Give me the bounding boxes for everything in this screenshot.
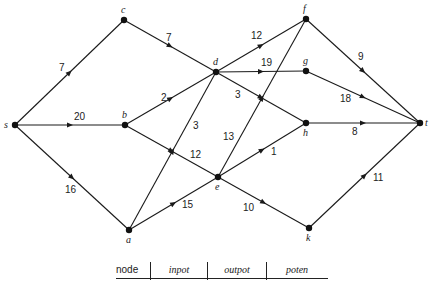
node-t bbox=[417, 120, 423, 126]
col-node: node bbox=[116, 262, 150, 278]
edge-weight: 20 bbox=[74, 111, 86, 122]
edge-weight: 18 bbox=[340, 93, 352, 104]
node-label: d bbox=[213, 56, 219, 67]
node-s bbox=[12, 122, 18, 128]
edge-weight: 7 bbox=[59, 62, 65, 73]
node-label: h bbox=[303, 127, 308, 138]
arrow-icon bbox=[67, 122, 73, 127]
potential-table-header: node inpot outpot poten bbox=[116, 262, 328, 279]
edge-weight: 7 bbox=[166, 32, 172, 43]
arrow-icon bbox=[258, 148, 264, 153]
network-graph: 7720216312151219313110918811scbadefghkt bbox=[0, 0, 431, 283]
node-label: s bbox=[4, 119, 8, 130]
node-label: c bbox=[121, 4, 126, 15]
edge-weight: 13 bbox=[223, 131, 235, 142]
node-f bbox=[303, 16, 309, 22]
node-b bbox=[122, 122, 128, 128]
col-inpot: inpot bbox=[151, 262, 207, 278]
edge-weight: 2 bbox=[161, 92, 167, 103]
arrow-icon bbox=[360, 120, 366, 125]
node-e bbox=[215, 174, 221, 180]
edge-weight: 19 bbox=[261, 57, 273, 68]
node-k bbox=[306, 225, 312, 231]
edge-weight: 11 bbox=[373, 172, 384, 183]
node-label: t bbox=[425, 117, 428, 128]
col-poten: poten bbox=[267, 262, 327, 278]
node-label: b bbox=[122, 109, 127, 120]
node-label: k bbox=[306, 232, 311, 243]
col-outpot: outpot bbox=[208, 262, 266, 278]
node-label: g bbox=[303, 55, 308, 66]
edge-weight: 9 bbox=[358, 51, 364, 62]
node-c bbox=[121, 17, 127, 23]
edge-weight: 15 bbox=[182, 199, 194, 210]
edge-weight: 12 bbox=[251, 30, 263, 41]
edge-weight: 8 bbox=[352, 126, 358, 137]
edge-weight: 12 bbox=[190, 149, 202, 160]
edge-weight: 16 bbox=[65, 184, 77, 195]
node-label: a bbox=[126, 234, 131, 245]
node-a bbox=[126, 227, 132, 233]
edge-weight: 3 bbox=[235, 89, 241, 100]
arrow-icon bbox=[258, 69, 264, 74]
node-d bbox=[213, 69, 219, 75]
edge-weight: 3 bbox=[193, 120, 199, 131]
edge-weight: 10 bbox=[243, 202, 255, 213]
node-h bbox=[303, 120, 309, 126]
node-label: f bbox=[303, 3, 307, 14]
node-label: e bbox=[215, 181, 220, 192]
edge-weight: 1 bbox=[271, 146, 277, 157]
node-g bbox=[303, 68, 309, 74]
